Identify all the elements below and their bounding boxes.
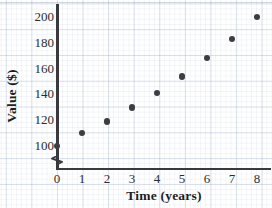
x-tick-label-2: 2 bbox=[97, 171, 117, 187]
page-top-edge-line bbox=[0, 2, 272, 3]
data-point bbox=[179, 73, 185, 79]
y-tick-label-160: 160 bbox=[20, 63, 54, 74]
x-tick-label-5: 5 bbox=[172, 171, 192, 187]
x-tick-label-4: 4 bbox=[147, 171, 167, 187]
y-axis-title: Value ($) bbox=[4, 56, 20, 136]
x-axis-line bbox=[56, 168, 271, 170]
x-tick-label-7: 7 bbox=[222, 171, 242, 187]
y-tick-label-200: 200 bbox=[20, 11, 54, 22]
x-tick-label-0: 0 bbox=[47, 171, 67, 187]
x-tick-label-6: 6 bbox=[197, 171, 217, 187]
y-tick-label-120: 120 bbox=[20, 114, 54, 125]
y-tick-label-140: 140 bbox=[20, 88, 54, 99]
x-tick-label-8: 8 bbox=[247, 171, 267, 187]
y-tick-label-180: 180 bbox=[20, 37, 54, 48]
chart-figure: 200 180 160 140 120 100 0 1 2 3 4 5 6 7 … bbox=[0, 0, 272, 208]
x-tick-label-1: 1 bbox=[72, 171, 92, 187]
data-point bbox=[104, 118, 110, 124]
data-point bbox=[129, 104, 135, 110]
x-tick-label-3: 3 bbox=[122, 171, 142, 187]
x-axis-title: Time (years) bbox=[56, 188, 272, 204]
y-tick-label-100: 100 bbox=[20, 140, 54, 151]
